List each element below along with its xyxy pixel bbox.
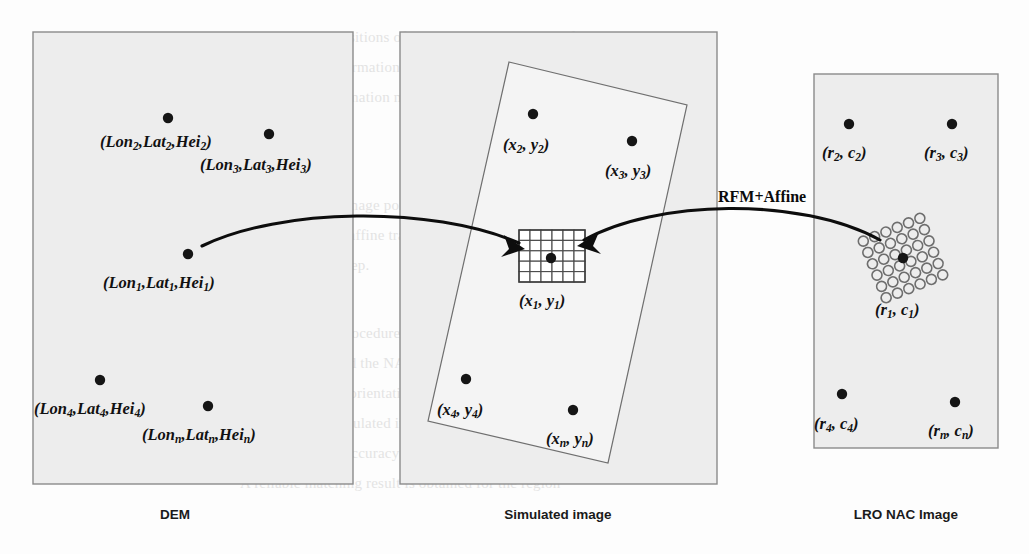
pixel-cell (541, 272, 552, 282)
control-point-dot-rn (950, 397, 960, 407)
pixel-cell (519, 272, 530, 282)
pixel-cell (530, 261, 541, 271)
panel-caption-simulated: Simulated image (504, 507, 612, 522)
pixel-cell (574, 272, 585, 282)
pixel-cell (563, 251, 574, 261)
captions-layer: DEMSimulated imageLRO NAC Image (160, 507, 959, 522)
pixel-cell (541, 240, 552, 250)
control-point-dot-p1 (183, 249, 193, 259)
pixel-cell (552, 272, 563, 282)
control-point-dot-x1 (546, 253, 556, 263)
diagram-canvas: (Lon2,Lat2,Hei2)(Lon3,Lat3,Hei3)(Lon1,La… (0, 0, 1029, 554)
control-point-dot-x3 (627, 136, 637, 146)
panel-nac: (r2, c2)(r3, c3)(r1, c1)(r4, c4)(rn, cn) (814, 74, 998, 448)
pixel-cell (530, 230, 541, 240)
pixel-cell (574, 251, 585, 261)
pixel-cell (530, 272, 541, 282)
point-label-p1: (Lon1,Lat1,Hei1) (103, 273, 215, 293)
figure-root: where and are the positions of , and are… (0, 0, 1029, 554)
panel-dem: (Lon2,Lat2,Hei2)(Lon3,Lat3,Hei3)(Lon1,La… (33, 32, 353, 484)
control-point-dot-r3 (947, 119, 957, 129)
pixel-cell (563, 240, 574, 250)
point-label-p4: (Lon4,Lat4,Hei4) (34, 399, 146, 419)
pixel-cell (530, 251, 541, 261)
control-point-dot-x4 (461, 374, 471, 384)
control-point-dot-r2 (844, 119, 854, 129)
pixel-cell (541, 230, 552, 240)
panels-layer: (Lon2,Lat2,Hei2)(Lon3,Lat3,Hei3)(Lon1,La… (33, 32, 998, 484)
point-label-pn: (Lonn,Latn,Hein) (142, 425, 256, 445)
control-point-dot-pn (203, 401, 213, 411)
transform-label: RFM+Affine (718, 188, 806, 205)
control-point-dot-r4 (837, 389, 847, 399)
pixel-cell (519, 230, 530, 240)
panel-caption-nac: LRO NAC Image (854, 507, 959, 522)
panel-simulated: (x2, y2)(x3, y3)(x1, y1)(x4, y4)(xn, yn) (400, 32, 717, 484)
point-label-p2: (Lon2,Lat2,Hei2) (100, 132, 212, 152)
pixel-cell (552, 261, 563, 271)
pixel-cell (563, 261, 574, 271)
pixel-cell (552, 240, 563, 250)
control-point-dot-p3 (264, 129, 274, 139)
control-point-dot-x2 (528, 109, 538, 119)
panel-caption-dem: DEM (160, 507, 190, 522)
control-point-dot-r1 (898, 253, 908, 263)
pixel-cell (563, 272, 574, 282)
pixel-cell (574, 261, 585, 271)
pixel-cell (519, 261, 530, 271)
control-point-dot-p4 (95, 375, 105, 385)
pixel-cell (563, 230, 574, 240)
control-point-dot-p2 (163, 113, 173, 123)
pixel-cell (530, 240, 541, 250)
point-label-p3: (Lon3,Lat3,Hei3) (200, 155, 312, 175)
control-point-dot-xn (568, 405, 578, 415)
pixel-cell (519, 251, 530, 261)
pixel-cell (552, 230, 563, 240)
